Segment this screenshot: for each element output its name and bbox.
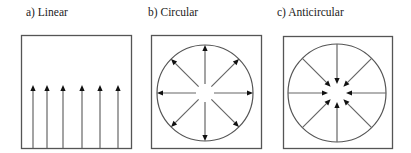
arrowhead-icon bbox=[44, 85, 49, 91]
arrowhead-icon bbox=[79, 85, 84, 91]
arrowhead-icon bbox=[334, 102, 339, 108]
arrowhead-icon bbox=[334, 78, 339, 84]
arrowhead-icon bbox=[30, 85, 35, 91]
panel-frame bbox=[152, 36, 262, 149]
arrow-shaft bbox=[211, 99, 234, 122]
panel-linear bbox=[22, 36, 132, 149]
flow-diagram bbox=[0, 0, 411, 153]
arrow-shaft bbox=[348, 58, 372, 82]
arrowhead-icon bbox=[202, 45, 207, 51]
arrowhead-icon bbox=[60, 85, 65, 91]
panel-anticircular bbox=[284, 37, 393, 149]
arrow-shaft bbox=[302, 104, 326, 128]
arrowhead-icon bbox=[346, 90, 352, 95]
arrowhead-icon bbox=[115, 85, 120, 91]
arrowhead-icon bbox=[157, 90, 163, 95]
arrowhead-icon bbox=[202, 135, 207, 141]
panel-circular bbox=[152, 36, 262, 149]
arrow-shaft bbox=[175, 63, 198, 86]
arrow-shaft bbox=[175, 99, 198, 122]
arrow-shaft bbox=[211, 63, 234, 86]
arrowhead-icon bbox=[322, 90, 328, 95]
arrowhead-icon bbox=[247, 90, 253, 95]
panel-frame bbox=[22, 36, 132, 149]
arrow-shaft bbox=[302, 58, 326, 82]
arrow-shaft bbox=[348, 104, 372, 128]
arrowhead-icon bbox=[97, 85, 102, 91]
